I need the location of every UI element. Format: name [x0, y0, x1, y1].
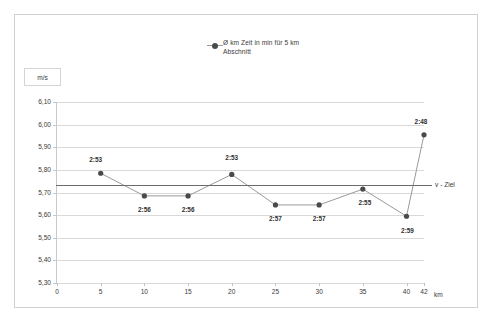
- x-axis-title: km: [434, 291, 443, 298]
- x-axis-tick-label: 15: [178, 288, 198, 295]
- x-axis-tick: [144, 283, 145, 286]
- y-axis-unit-label: m/s: [37, 74, 48, 81]
- data-point-marker[interactable]: [317, 202, 322, 207]
- x-axis-tick: [407, 283, 408, 286]
- data-point-label: 2:57: [306, 215, 332, 222]
- data-point-marker[interactable]: [273, 202, 278, 207]
- threshold-line: [56, 185, 424, 186]
- y-axis-tick-label: 5,80: [23, 166, 51, 173]
- y-axis-tick-label: 6,00: [23, 121, 51, 128]
- data-point-label: 2:57: [262, 215, 288, 222]
- data-point-marker[interactable]: [142, 193, 147, 198]
- y-axis-tick-label: 5,30: [23, 279, 51, 286]
- x-axis-tick-label: 5: [91, 288, 111, 295]
- x-axis-tick: [319, 283, 320, 286]
- data-point-label: 2:56: [175, 206, 201, 213]
- threshold-line-stub: [424, 185, 432, 186]
- x-axis-tick: [188, 283, 189, 286]
- x-axis-tick-label: 20: [222, 288, 242, 295]
- y-axis-tick-label: 5,50: [23, 234, 51, 241]
- x-axis-tick-label: 30: [309, 288, 329, 295]
- data-series-line: [57, 102, 424, 283]
- x-axis-tick: [275, 283, 276, 286]
- y-axis-tick-label: 5,70: [23, 189, 51, 196]
- chart-figure: Ø km Zeit in min für 5 km Abschnitt m/s …: [0, 0, 493, 321]
- x-axis-tick-label: 35: [353, 288, 373, 295]
- y-axis-tick-label: 5,90: [23, 143, 51, 150]
- x-axis-tick: [363, 283, 364, 286]
- y-axis-tick-label: 5,40: [23, 256, 51, 263]
- x-axis-tick: [57, 283, 58, 286]
- x-axis-tick: [101, 283, 102, 286]
- data-point-label: 2:48: [408, 118, 434, 125]
- x-axis-tick: [232, 283, 233, 286]
- data-point-marker[interactable]: [360, 187, 365, 192]
- legend-entry-label: Ø km Zeit in min für 5 km Abschnitt: [223, 38, 299, 56]
- data-point-label: 2:56: [131, 206, 157, 213]
- data-point-marker[interactable]: [185, 193, 190, 198]
- x-axis-tick: [424, 283, 425, 286]
- x-axis-tick-label: 25: [265, 288, 285, 295]
- y-axis-unit-box: m/s: [24, 68, 61, 86]
- data-point-label: 2:59: [395, 227, 421, 234]
- data-point-marker[interactable]: [421, 132, 426, 137]
- chart-legend[interactable]: Ø km Zeit in min für 5 km Abschnitt: [207, 38, 367, 56]
- data-point-marker[interactable]: [98, 171, 103, 176]
- x-axis-tick-label: 0: [47, 288, 67, 295]
- gridline: [57, 283, 424, 284]
- legend-marker-icon: [207, 41, 223, 50]
- data-point-marker[interactable]: [229, 172, 234, 177]
- threshold-label: v - Ziel: [435, 181, 455, 188]
- x-axis-tick-label: 10: [134, 288, 154, 295]
- data-point-label: 2:55: [352, 199, 378, 206]
- data-point-label: 2:53: [219, 154, 245, 161]
- y-axis-tick-label: 5,60: [23, 211, 51, 218]
- y-axis-tick-label: 6,10: [23, 98, 51, 105]
- plot-area: 2:532:562:562:532:572:572:552:592:48 v -…: [57, 102, 424, 283]
- data-point-label: 2:53: [83, 156, 109, 163]
- x-axis-tick-label: 42: [414, 288, 434, 295]
- data-point-marker[interactable]: [404, 214, 409, 219]
